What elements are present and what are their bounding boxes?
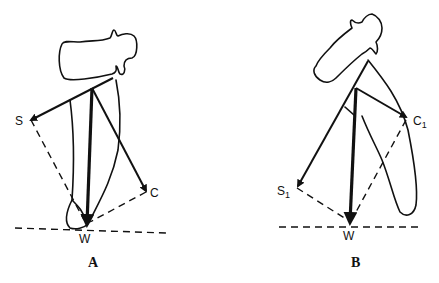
label-c1-sub: 1: [422, 120, 427, 130]
vector-c1: [356, 88, 406, 117]
label-s1-main: S: [277, 184, 285, 198]
label-c: C: [150, 186, 159, 200]
bone-inner-b: [345, 107, 354, 115]
bone-outline-a: [66, 80, 120, 229]
force-diagram: S C W A S1 C1 W B: [0, 0, 439, 283]
bone-outline-b: [362, 60, 417, 215]
label-c1-main: C: [413, 114, 422, 128]
label-w-a: W: [79, 232, 91, 246]
dashed-s-to-w: [31, 120, 84, 220]
label-s1-sub: 1: [285, 190, 290, 200]
label-w-b: W: [343, 229, 355, 243]
dashed-c1-to-w: [356, 120, 406, 212]
label-s: S: [15, 114, 23, 128]
vertebra-outline-a: [59, 30, 137, 80]
panel-a: S C W A: [15, 30, 166, 270]
ground-line-a: [15, 228, 166, 233]
dashed-c-to-w: [90, 192, 146, 222]
label-c1: C1: [413, 114, 427, 130]
panel-label-b: B: [351, 255, 360, 270]
dashed-s1-to-w: [297, 188, 346, 219]
vector-w: [87, 88, 92, 224]
vertebra-outline-b: [314, 14, 382, 82]
panel-label-a: A: [88, 255, 99, 270]
vector-w-b: [350, 88, 356, 222]
label-s1: S1: [277, 184, 290, 200]
panel-b: S1 C1 W B: [277, 14, 427, 270]
